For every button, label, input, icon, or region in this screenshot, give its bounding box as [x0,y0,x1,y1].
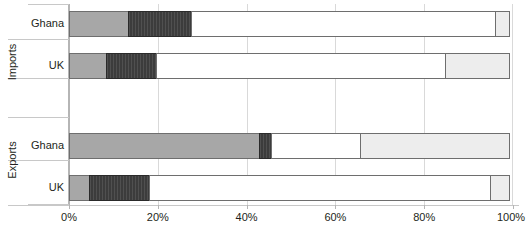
x-axis-label-100: 100% [497,211,525,223]
bar-segment-3 [271,133,361,159]
bar-segment-2 [89,175,150,201]
x-axis-label-80: 80% [413,211,435,223]
bar-exports-ghana [69,133,513,159]
bar-segment-3 [191,11,496,37]
bar-segment-3 [156,53,446,79]
bar-segment-2 [106,53,157,79]
x-axis-tick [424,205,425,209]
x-axis-label-60: 60% [324,211,346,223]
x-axis-tick [69,205,70,209]
category-axis-tick [8,117,69,118]
group-label-exports: Exports [6,124,18,196]
bar-segment-2 [128,11,192,37]
bar-segment-4 [360,133,510,159]
bar-segment-1 [69,133,260,159]
bar-segment-4 [495,11,510,37]
plot-area [69,4,513,205]
x-axis-tick [158,205,159,209]
x-axis-line [8,205,519,206]
bar-imports-ghana [69,11,513,37]
x-axis-label-0: 0% [61,211,77,223]
x-axis-tick [335,205,336,209]
category-axis: Imports Exports Ghana UK Ghana UK [0,4,69,205]
x-axis-tick [247,205,248,209]
group-label-imports: Imports [6,26,18,98]
bar-exports-uk [69,175,513,201]
x-axis-tick [513,205,514,209]
category-label-exports-uk: UK [49,181,64,193]
x-axis-label-40: 40% [236,211,258,223]
x-axis-label-20: 20% [147,211,169,223]
stacked-bar-chart: Imports Exports Ghana UK Ghana UK [0,0,527,230]
bar-segment-4 [490,175,510,201]
bar-segment-3 [149,175,491,201]
bar-imports-uk [69,53,513,79]
bar-segment-1 [69,175,90,201]
bar-segment-1 [69,53,107,79]
bar-segment-4 [445,53,510,79]
category-label-exports-ghana: Ghana [31,139,64,151]
bar-segment-1 [69,11,129,37]
category-label-imports-ghana: Ghana [31,17,64,29]
category-label-imports-uk: UK [49,59,64,71]
category-axis-tick [28,4,69,5]
